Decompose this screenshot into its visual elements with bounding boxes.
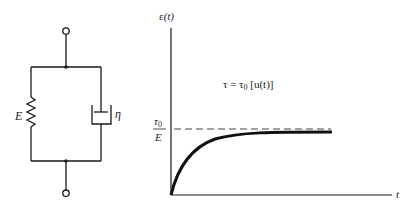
bottom-terminal-icon (63, 190, 69, 196)
asymptote-tau-subscript: 0 (158, 120, 162, 129)
dashpot-viscosity-label: η (115, 107, 121, 121)
stress-equation: τ = τ0 [u(t)] (223, 78, 274, 92)
asymptote-numerator: τ0 (154, 115, 162, 129)
creep-curve (171, 132, 332, 195)
equation-rhs: [u(t)] (248, 78, 274, 91)
spring-icon (27, 97, 35, 127)
y-axis-label: ε(t) (159, 10, 174, 23)
asymptote-label: τ0 E (153, 115, 166, 143)
equation-lhs: τ = τ (223, 78, 244, 90)
spring-modulus-label: E (14, 109, 23, 123)
top-terminal-icon (63, 28, 69, 34)
asymptote-denominator: E (154, 131, 162, 143)
kelvin-voigt-circuit (27, 28, 111, 197)
y-axis-argument: (t) (164, 10, 175, 23)
x-axis-label: t (396, 188, 400, 200)
kelvin-voigt-figure: E η ε(t) t τ0 E τ = τ0 [u(t)] (0, 0, 415, 209)
strain-time-graph: ε(t) t τ0 E τ = τ0 [u(t)] (153, 10, 400, 200)
